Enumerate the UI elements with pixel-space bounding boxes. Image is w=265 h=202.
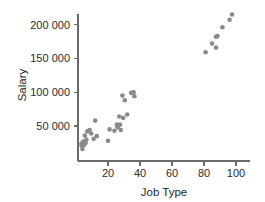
data-point (123, 98, 128, 103)
y-axis: 50 000100 000150 000200 000 (30, 14, 78, 161)
y-axis-title: Salary (16, 68, 28, 101)
y-tick-label: 50 000 (36, 120, 70, 132)
data-point (93, 118, 98, 123)
x-axis-title: Job Type (141, 186, 187, 198)
data-point (214, 45, 219, 50)
data-point (95, 134, 100, 139)
data-point (125, 112, 130, 117)
data-point (230, 12, 235, 17)
x-tick-label: 80 (198, 167, 210, 179)
data-point (83, 133, 88, 138)
data-point (80, 147, 85, 152)
data-point (215, 34, 220, 39)
data-points-layer (79, 12, 234, 151)
data-point (120, 93, 125, 98)
data-point (131, 90, 136, 95)
data-point (118, 122, 123, 127)
data-point (121, 116, 126, 121)
scatter-plot-figure: 50 000100 000150 000200 000 20406080100 … (0, 0, 265, 202)
plot-canvas: 50 000100 000150 000200 000 20406080100 … (0, 0, 265, 202)
data-point (112, 128, 117, 133)
y-tick-label: 150 000 (30, 52, 70, 64)
x-tick-label: 60 (166, 167, 178, 179)
data-point (132, 94, 137, 99)
data-point (84, 137, 89, 142)
data-point (203, 50, 208, 55)
data-point (227, 18, 232, 23)
x-axis: 20406080100 (78, 161, 250, 179)
data-point (106, 139, 111, 144)
x-tick-label: 40 (134, 167, 146, 179)
x-tick-label: 100 (227, 167, 245, 179)
data-point (220, 25, 225, 30)
data-point (117, 114, 122, 119)
data-point (210, 41, 215, 46)
data-point (107, 127, 112, 132)
y-tick-label: 200 000 (30, 19, 70, 31)
x-tick-label: 20 (102, 167, 114, 179)
y-tick-label: 100 000 (30, 86, 70, 98)
data-point (89, 131, 94, 136)
data-point (119, 128, 124, 133)
